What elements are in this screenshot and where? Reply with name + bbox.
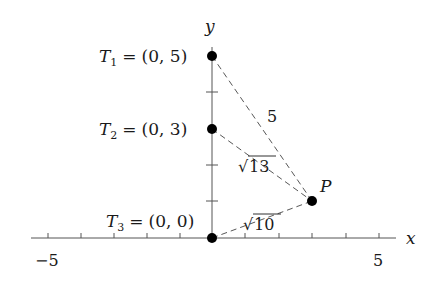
label-t3: T3=(0, 0) — [106, 211, 194, 234]
point-t3 — [207, 233, 217, 243]
x-tick-label-neg5: −5 — [35, 251, 59, 270]
coordinate-diagram: y x −5 5 T1=(0, 5) T2=(0, 3) T3=(0, 0) P… — [0, 0, 436, 285]
distance-label-sqrt13: √ 13 — [238, 156, 276, 176]
svg-text:10: 10 — [254, 215, 274, 234]
label-t1: T1=(0, 5) — [99, 46, 187, 69]
x-tick-label-5: 5 — [373, 251, 383, 270]
svg-text:13: 13 — [249, 157, 269, 176]
distance-label-sqrt10: √ 10 — [243, 214, 281, 234]
svg-text:√: √ — [243, 215, 254, 234]
distance-segments — [212, 56, 312, 238]
x-axis-label: x — [406, 228, 416, 248]
label-t2: T2=(0, 3) — [99, 119, 187, 142]
label-p: P — [319, 176, 332, 196]
segment-t1-p — [212, 56, 312, 201]
y-axis-label: y — [204, 16, 215, 36]
point-t2 — [207, 124, 217, 134]
point-t1 — [207, 51, 217, 61]
svg-text:√: √ — [238, 157, 249, 176]
distance-label-5: 5 — [267, 107, 277, 126]
point-p — [307, 196, 317, 206]
